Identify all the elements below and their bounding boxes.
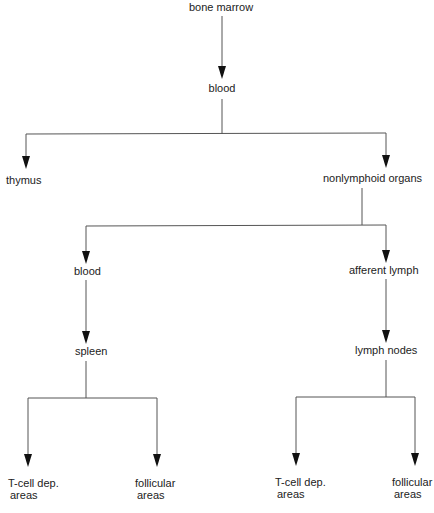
node-label-line2: areas [275, 488, 326, 500]
node-blood-top: blood [209, 82, 236, 94]
arrowhead-icon [82, 251, 90, 264]
connector-lines [0, 0, 434, 513]
lymphocyte-migration-diagram: bone marrow blood thymus nonlymphoid org… [0, 0, 434, 513]
node-spleen: spleen [75, 345, 107, 357]
arrowhead-icon [382, 330, 390, 343]
node-bone-marrow: bone marrow [189, 1, 253, 13]
node-spleen-follicular-areas: follicular areas [135, 477, 175, 501]
arrowhead-icon [22, 156, 30, 169]
node-label-line2: areas [8, 489, 59, 501]
node-label-line1: T-cell dep. [275, 476, 326, 488]
node-spleen-tcell-areas: T-cell dep. areas [8, 477, 59, 501]
edge-nonlymphoid-horizontal [86, 225, 386, 226]
edge-blood-horizontal [26, 133, 386, 134]
arrowhead-icon [82, 331, 90, 344]
arrowhead-icon [218, 66, 226, 79]
arrowhead-icon [382, 155, 390, 168]
node-label-line1: follicular [392, 476, 432, 488]
node-lymph-nodes: lymph nodes [355, 344, 417, 356]
node-thymus: thymus [6, 174, 41, 186]
node-label-line1: T-cell dep. [8, 477, 59, 489]
node-label-line2: areas [392, 488, 432, 500]
arrowhead-icon [153, 454, 161, 467]
node-ln-tcell-areas: T-cell dep. areas [275, 476, 326, 500]
node-nonlymphoid-organs: nonlymphoid organs [323, 172, 422, 184]
node-label-line2: areas [135, 489, 175, 501]
node-afferent-lymph: afferent lymph [349, 264, 419, 276]
arrowhead-icon [292, 453, 300, 466]
arrowhead-icon [411, 453, 419, 466]
arrowhead-icon [382, 250, 390, 263]
node-label-line1: follicular [135, 477, 175, 489]
arrowhead-icon [24, 454, 32, 467]
node-blood-left: blood [74, 265, 101, 277]
node-ln-follicular-areas: follicular areas [392, 476, 432, 500]
